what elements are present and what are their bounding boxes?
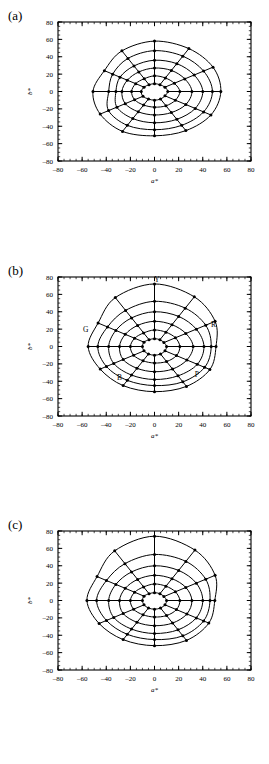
data-point-marker [209, 113, 212, 116]
data-point-marker [214, 574, 217, 577]
axes-frame: –80–80–60–60–40–40–20–200020204040606080… [26, 274, 255, 440]
data-point-marker [174, 336, 177, 339]
data-point-marker [153, 121, 156, 124]
data-point-marker [194, 107, 197, 110]
x-tick-label: 0 [153, 166, 157, 174]
data-point-marker [190, 90, 193, 93]
x-tick-label: 60 [223, 166, 231, 174]
data-point-marker [124, 587, 127, 590]
data-point-marker [153, 354, 156, 357]
data-point-marker [85, 599, 88, 602]
data-point-marker [178, 599, 181, 602]
y-tick-label: –80 [42, 413, 54, 421]
data-point-marker [126, 57, 129, 60]
x-tick-label: –40 [100, 675, 112, 683]
data-point-marker [107, 345, 110, 348]
data-point-marker [137, 110, 140, 113]
data-point-marker [96, 345, 99, 348]
data-point-marker [113, 549, 116, 552]
y-tick-label: –40 [42, 378, 54, 386]
data-point-marker [153, 644, 156, 647]
data-point-marker [130, 374, 133, 377]
chroma-contour [107, 51, 212, 130]
data-point-marker [132, 354, 135, 357]
data-point-marker [170, 323, 173, 326]
hue-label-P: P [195, 370, 199, 379]
y-tick-label: 80 [46, 528, 54, 536]
data-point-marker [193, 73, 196, 76]
data-point-marker [153, 362, 156, 365]
data-point-marker [107, 599, 110, 602]
data-point-marker [114, 296, 117, 299]
data-point-marker [107, 109, 110, 112]
data-point-marker [122, 612, 125, 615]
data-point-marker [195, 616, 198, 619]
data-point-marker [163, 86, 166, 89]
data-point-marker [142, 585, 145, 588]
data-point-marker [181, 380, 184, 383]
data-point-marker [153, 74, 156, 77]
data-point-marker [122, 384, 125, 387]
data-point-marker [204, 578, 207, 581]
data-point-marker [163, 603, 166, 606]
x-tick-label: –20 [124, 421, 136, 429]
data-point-marker [202, 345, 205, 348]
data-point-marker [133, 591, 136, 594]
data-point-marker [98, 622, 101, 625]
data-point-marker [164, 331, 167, 334]
data-point-marker [213, 599, 216, 602]
data-point-marker [208, 368, 211, 371]
data-point-marker [193, 549, 196, 552]
data-point-marker [121, 130, 124, 133]
data-point-marker [177, 569, 180, 572]
data-point-marker [177, 315, 180, 318]
x-tick-label: 40 [199, 421, 207, 429]
data-point-marker [173, 82, 176, 85]
data-point-marker [175, 608, 178, 611]
data-point-marker [106, 325, 109, 328]
data-point-marker [114, 90, 117, 93]
data-point-marker [163, 94, 166, 97]
axes-frame: –80–80–60–60–40–40–20–200020204040606080… [26, 528, 255, 694]
data-point-marker [120, 90, 123, 93]
data-point-marker [143, 77, 146, 80]
data-point-marker [143, 86, 146, 89]
data-point-marker [153, 616, 156, 619]
data-point-marker [201, 90, 204, 93]
x-tick-label: 20 [175, 675, 183, 683]
data-point-marker [158, 338, 161, 341]
y-tick-label: 60 [46, 36, 54, 44]
data-point-marker [165, 614, 168, 617]
x-tick-label: 40 [199, 675, 207, 683]
data-point-marker [185, 612, 188, 615]
data-point-marker [165, 599, 168, 602]
data-point-marker [153, 310, 156, 313]
y-tick-label: 40 [46, 562, 54, 570]
data-point-marker [137, 70, 140, 73]
data-point-marker [190, 599, 193, 602]
data-point-marker [162, 341, 165, 344]
data-point-marker [141, 599, 144, 602]
data-point-marker [142, 359, 145, 362]
data-point-marker [153, 328, 156, 331]
data-point-marker [159, 607, 162, 610]
data-point-marker [175, 118, 178, 121]
data-point-marker [153, 59, 156, 62]
data-point-marker [112, 362, 115, 365]
chroma-contour [141, 84, 168, 101]
data-point-marker [147, 98, 150, 101]
gamut-web-a [91, 40, 222, 138]
plot-a: –80–80–60–60–40–40–20–200020204040606080… [0, 0, 269, 255]
data-point-marker [153, 535, 156, 538]
data-point-marker [192, 345, 195, 348]
data-point-marker [211, 90, 214, 93]
y-axis-title: b* [26, 343, 34, 351]
x-tick-label: 60 [223, 675, 231, 683]
x-tick-label: 0 [153, 675, 157, 683]
figure-cielab-gamuts: (a) –80–80–60–60–40–40–20–20002020404060… [0, 0, 269, 764]
data-point-marker [114, 583, 117, 586]
data-point-marker [203, 366, 206, 369]
data-point-marker [111, 73, 114, 76]
x-axis-title: a* [151, 177, 159, 185]
data-point-marker [163, 349, 166, 352]
